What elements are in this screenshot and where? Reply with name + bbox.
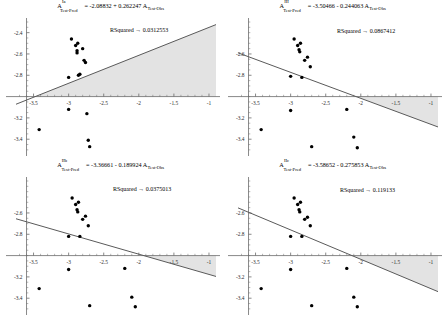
data-point xyxy=(296,44,299,47)
data-point xyxy=(76,210,79,213)
data-point xyxy=(70,37,73,40)
x-tick-label: -3.5 xyxy=(251,259,260,265)
data-point xyxy=(74,203,77,206)
data-point xyxy=(298,210,301,213)
data-point xyxy=(300,235,303,238)
x-tick-label: -2.5 xyxy=(99,100,108,106)
data-point xyxy=(67,76,70,79)
data-point xyxy=(296,203,299,206)
data-point xyxy=(84,61,87,64)
y-tick-label: -2.8 xyxy=(236,72,245,78)
data-point xyxy=(81,47,84,50)
y-tick-label: -2.6 xyxy=(14,210,23,216)
x-tick-label: -3.5 xyxy=(29,259,38,265)
data-point xyxy=(123,267,126,270)
x-tick-label: -3 xyxy=(66,259,71,265)
y-tick-label: -3.4 xyxy=(236,136,245,142)
data-point xyxy=(85,112,88,115)
x-tick-label: -2.5 xyxy=(99,259,108,265)
data-point xyxy=(88,145,91,148)
x-tick-label: -3.5 xyxy=(29,100,38,106)
data-point xyxy=(292,37,295,40)
data-point xyxy=(88,304,91,307)
data-point xyxy=(310,304,313,307)
data-point xyxy=(259,128,262,131)
data-point xyxy=(77,201,80,204)
data-point xyxy=(84,214,87,217)
data-point xyxy=(303,59,306,62)
y-tick-label: -3.4 xyxy=(14,295,23,301)
data-point xyxy=(81,218,84,221)
x-tick-label: -1.5 xyxy=(170,100,179,106)
data-point xyxy=(299,42,302,45)
regression-line xyxy=(16,219,216,277)
scatter-panel-Ia: AIaTest-Pred = -2.08832 + 0.262247 ATest… xyxy=(0,0,221,158)
x-tick-label: -3 xyxy=(288,259,293,265)
data-point xyxy=(289,109,292,112)
data-point xyxy=(299,201,302,204)
data-point xyxy=(310,145,313,148)
data-point xyxy=(298,50,301,53)
x-tick-label: -1 xyxy=(207,259,212,265)
data-point xyxy=(37,287,40,290)
x-tick-label: -3.5 xyxy=(251,100,260,106)
data-point xyxy=(292,196,295,199)
y-tick-label: -3.2 xyxy=(236,115,245,121)
x-tick-label: -2 xyxy=(137,259,142,265)
regression-line xyxy=(238,53,438,127)
x-tick-label: -2 xyxy=(137,100,142,106)
plot-canvas-Ia: -3.5-3-2.5-2-1.5-1-2.4-2.6-2.8-3.2-3.4 xyxy=(0,0,221,158)
data-point xyxy=(289,268,292,271)
plot-canvas-IIc: -3.5-3-2.5-2-1.5-1-2.6-2.8-3.2-3.4 xyxy=(222,159,443,317)
x-tick-label: -1 xyxy=(429,100,434,106)
data-point xyxy=(289,75,292,78)
data-point xyxy=(78,73,81,76)
x-tick-label: -1.5 xyxy=(392,259,401,265)
regression-line xyxy=(238,208,438,292)
y-tick-label: -3.4 xyxy=(14,136,23,142)
y-tick-label: -2.4 xyxy=(14,30,23,36)
y-tick-label: -3.2 xyxy=(14,115,23,121)
plot-canvas-IIb: -3.5-3-2.5-2-1.5-1-2.6-2.8-3.2-3.4 xyxy=(0,159,221,317)
data-point xyxy=(352,135,355,138)
y-tick-label: -3.4 xyxy=(236,295,245,301)
x-tick-label: -2 xyxy=(359,100,364,106)
data-point xyxy=(356,305,359,308)
data-point xyxy=(300,76,303,79)
data-point xyxy=(67,268,70,271)
scatter-panel-IIb: AIIbTest-Pred = -3.36661 - 0.189924 ATes… xyxy=(0,159,221,317)
plot-canvas-III: -3.5-3-2.5-2-1.5-1-2.6-2.8-3.2-3.4 xyxy=(222,0,443,158)
data-point xyxy=(303,218,306,221)
y-tick-label: -3.2 xyxy=(14,274,23,280)
scatter-panel-IIc: AIIcTest-Pred = -3.58652 - 0.275853 ATes… xyxy=(222,159,443,317)
data-point xyxy=(37,128,40,131)
data-point xyxy=(345,108,348,111)
data-point xyxy=(76,42,79,45)
figure-grid: AIaTest-Pred = -2.08832 + 0.262247 ATest… xyxy=(0,0,443,317)
data-point xyxy=(67,108,70,111)
data-point xyxy=(309,224,312,227)
data-point xyxy=(130,295,133,298)
x-tick-label: -3 xyxy=(288,100,293,106)
x-tick-label: -1.5 xyxy=(392,100,401,106)
data-point xyxy=(75,51,78,54)
data-point xyxy=(306,216,309,219)
data-point xyxy=(78,235,81,238)
data-point xyxy=(259,287,262,290)
data-point xyxy=(306,55,309,58)
x-tick-label: -1 xyxy=(429,259,434,265)
y-tick-label: -3.2 xyxy=(236,274,245,280)
data-point xyxy=(134,305,137,308)
scatter-panel-III: AIIITest-Pred = -3.50466 - 0.244063 ATes… xyxy=(222,0,443,158)
data-point xyxy=(67,235,70,238)
data-point xyxy=(87,224,90,227)
data-point xyxy=(289,235,292,238)
data-point xyxy=(345,267,348,270)
data-point xyxy=(70,196,73,199)
data-point xyxy=(309,65,312,68)
y-tick-label: -2.8 xyxy=(14,231,23,237)
x-tick-label: -2.5 xyxy=(321,100,330,106)
y-tick-label: -2.6 xyxy=(236,210,245,216)
x-tick-label: -1 xyxy=(207,100,212,106)
x-tick-label: -3 xyxy=(66,100,71,106)
